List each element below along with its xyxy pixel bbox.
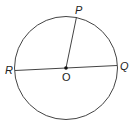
label-P: P	[75, 4, 83, 16]
label-Q: Q	[120, 60, 129, 72]
center-point-O	[64, 66, 68, 70]
radius-OP	[66, 17, 77, 68]
label-R: R	[5, 64, 13, 76]
circle-diagram: P R Q O	[0, 0, 134, 126]
label-O: O	[62, 71, 71, 83]
